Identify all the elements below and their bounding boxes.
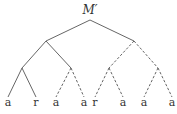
- tree-edge-dashed: [109, 41, 134, 68]
- tree-edge-solid: [46, 20, 90, 41]
- tree-edge-dashed: [95, 68, 109, 97]
- tree-edge-dashed: [71, 68, 84, 97]
- tree-diagram: M′ araaraaa: [0, 0, 177, 114]
- tree-edge-dashed: [158, 68, 172, 97]
- tree-edge-solid: [90, 20, 134, 41]
- leaf-label: r: [33, 96, 39, 109]
- tree-edge-solid: [8, 68, 22, 97]
- tree-edge-dashed: [144, 68, 158, 97]
- tree-edge-dashed: [109, 68, 123, 97]
- root-label: M′: [81, 3, 97, 17]
- tree-edge-dashed: [134, 41, 158, 68]
- leaf-label: a: [169, 96, 176, 109]
- leaf-label: r: [92, 96, 98, 109]
- tree-edge-solid: [46, 41, 71, 68]
- tree-edges: [8, 20, 172, 97]
- leaf-label: a: [81, 96, 88, 109]
- leaf-label: a: [5, 96, 12, 109]
- leaf-label: a: [120, 96, 127, 109]
- tree-edge-dashed: [56, 68, 71, 97]
- leaf-label: a: [53, 96, 60, 109]
- tree-edge-solid: [22, 68, 36, 97]
- tree-edge-solid: [22, 41, 46, 68]
- leaf-labels: araaraaa: [5, 96, 176, 109]
- leaf-label: a: [141, 96, 148, 109]
